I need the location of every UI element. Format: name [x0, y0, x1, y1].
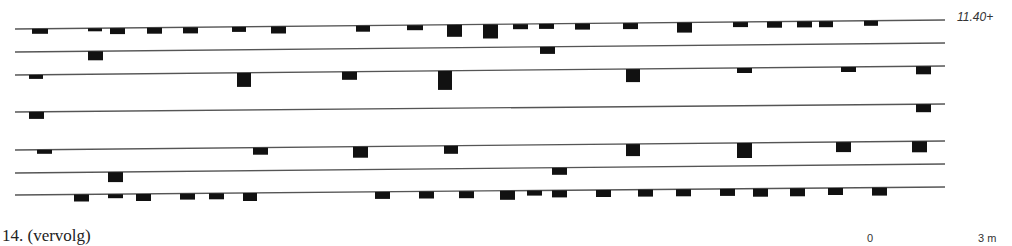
post-hole [29, 75, 43, 79]
post-hole [243, 193, 257, 201]
post-hole [147, 28, 162, 34]
post-hole [767, 22, 782, 28]
scale-end-label: 3 m [978, 232, 996, 244]
row-7 [15, 187, 945, 202]
excavation-plan [0, 0, 1012, 246]
post-hole [37, 150, 52, 154]
post-hole [110, 28, 125, 34]
post-hole [209, 193, 224, 199]
post-hole [737, 68, 752, 73]
post-hole [88, 28, 102, 31]
trench-line [15, 43, 945, 52]
post-hole [32, 29, 48, 34]
post-hole [253, 148, 268, 155]
post-hole [232, 27, 246, 32]
level-label: 11.40+ [957, 10, 993, 24]
post-hole [916, 66, 931, 74]
post-hole [864, 21, 878, 26]
post-hole [539, 24, 554, 29]
post-hole [108, 172, 123, 182]
post-hole [797, 21, 812, 27]
post-hole [575, 24, 590, 30]
post-hole [375, 192, 390, 199]
figure-caption: 14. (vervolg) [2, 226, 91, 246]
post-hole [513, 24, 528, 29]
post-hole [916, 104, 931, 112]
post-hole [720, 189, 735, 196]
post-hole [183, 27, 198, 33]
post-hole [626, 144, 640, 156]
post-hole [828, 188, 843, 195]
post-hole [638, 190, 653, 197]
row-6 [15, 164, 945, 182]
trench-line [15, 104, 945, 112]
post-hole [626, 69, 640, 82]
post-hole [108, 194, 123, 198]
post-hole [552, 168, 567, 175]
post-hole [676, 189, 691, 196]
row-1 [15, 20, 945, 39]
trench-line [15, 164, 945, 173]
post-hole [237, 73, 251, 87]
post-hole [753, 189, 768, 197]
post-hole [88, 51, 103, 60]
post-hole [836, 142, 851, 152]
post-hole [552, 190, 567, 197]
post-hole [353, 147, 368, 158]
post-hole [407, 25, 423, 30]
row-2 [15, 43, 945, 60]
post-hole [500, 191, 515, 200]
post-hole [419, 192, 434, 199]
scale-start-label: 0 [867, 232, 873, 244]
post-hole [356, 26, 370, 32]
post-hole [596, 190, 611, 197]
post-hole [74, 195, 89, 202]
post-hole [872, 188, 887, 196]
post-hole [29, 112, 44, 119]
trench-line [15, 187, 945, 195]
post-hole [733, 22, 748, 27]
post-hole [444, 146, 458, 154]
trench-line [15, 141, 945, 150]
post-hole [841, 67, 856, 72]
post-hole [677, 23, 692, 33]
post-hole [271, 27, 286, 34]
post-hole [180, 194, 195, 200]
row-5 [15, 141, 945, 158]
post-hole [540, 47, 555, 54]
post-hole [819, 21, 833, 27]
row-3 [15, 66, 945, 90]
trench-line [15, 66, 945, 75]
post-hole [527, 191, 542, 196]
post-hole [790, 188, 805, 196]
row-4 [15, 104, 945, 119]
post-hole [459, 191, 474, 198]
post-hole [912, 141, 927, 152]
post-hole [623, 23, 638, 29]
post-hole [483, 25, 498, 39]
post-hole [447, 25, 462, 37]
post-hole [342, 72, 357, 80]
post-hole [136, 194, 151, 201]
post-hole [438, 71, 452, 90]
post-hole [737, 143, 752, 158]
